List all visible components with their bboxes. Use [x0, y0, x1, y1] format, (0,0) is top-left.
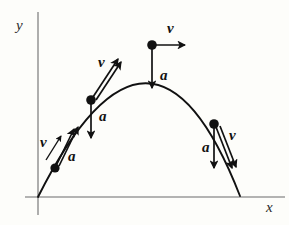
point-1-velocity-label: v	[40, 134, 47, 150]
point-4-velocity-label: v	[229, 127, 236, 143]
point-4-dot	[209, 119, 219, 129]
point-3-velocity-label: v	[167, 20, 174, 36]
point-3-acceleration-label: a	[160, 67, 168, 83]
point-2-acceleration-label: a	[99, 108, 107, 124]
projectile-motion-diagram: y x v a v a v a v a	[0, 0, 289, 225]
point-1-acceleration-label: a	[68, 148, 76, 164]
point-2-dot	[86, 95, 96, 105]
point-2-velocity-label: v	[98, 54, 105, 70]
point-3-dot	[147, 40, 157, 50]
diagram-background	[0, 0, 289, 225]
point-4-acceleration-label: a	[202, 139, 210, 155]
x-axis-label: x	[265, 199, 273, 215]
y-axis-label: y	[14, 17, 23, 33]
point-1-dot	[50, 163, 59, 172]
